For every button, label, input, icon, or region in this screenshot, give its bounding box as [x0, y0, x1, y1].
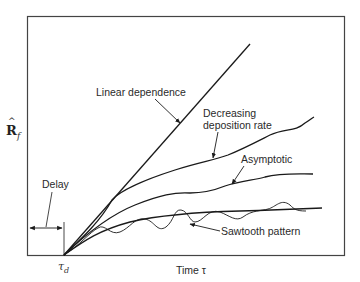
label-sawtooth: Sawtooth pattern — [221, 225, 301, 237]
x-axis-label: Time τ — [176, 264, 207, 276]
label-linear-dependence: Linear dependence — [96, 86, 186, 98]
plot-frame — [28, 17, 345, 256]
pointer-decreasing — [213, 132, 218, 158]
pointer-delay — [46, 192, 52, 227]
curve-linear-dependence — [64, 44, 250, 255]
label-asymptotic: Asymptotic — [241, 153, 292, 165]
svg-text:R: R — [6, 123, 17, 138]
curve-asymptotic — [64, 174, 313, 255]
origin-label: τ d — [58, 260, 69, 275]
svg-text:d: d — [64, 266, 69, 275]
label-decreasing-line1: Decreasing — [203, 107, 256, 119]
deposition-diagram: ^ R f Linear dependence Decreasing depos… — [0, 0, 360, 282]
pointer-linear-dependence — [155, 99, 180, 123]
svg-text:f: f — [16, 131, 22, 141]
label-decreasing-line2: deposition rate — [203, 119, 272, 131]
pointer-sawtooth — [190, 224, 220, 231]
label-delay: Delay — [42, 178, 70, 190]
y-axis-label: ^ R f — [6, 116, 22, 141]
